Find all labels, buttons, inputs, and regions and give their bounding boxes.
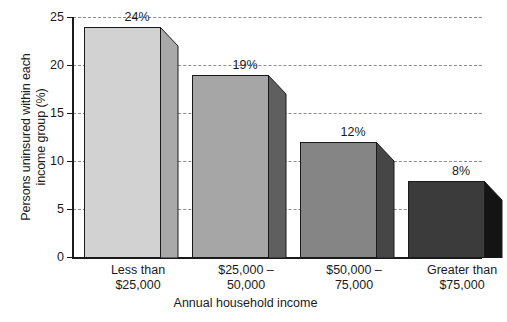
y-tick-label-15: 15	[30, 107, 64, 119]
x-tick-label-4-line-1: Greater than	[398, 263, 507, 278]
y-tick-label-0: 0	[30, 251, 64, 263]
bar-side-4	[484, 181, 507, 258]
bar-value-3: 12%	[300, 126, 406, 139]
x-tick-label-4-line-2: $75,000	[398, 278, 507, 293]
bar-group-2[interactable]: 19%	[192, 75, 298, 258]
y-tick-mark-10	[67, 161, 72, 162]
bar-side-3	[376, 142, 406, 258]
y-tick-mark-15	[67, 113, 72, 114]
bar-side-1	[160, 27, 190, 258]
x-tick-label-4: Greater than $75,000	[398, 263, 507, 292]
x-axis-title: Annual household income	[0, 296, 491, 310]
y-tick-label-20: 20	[30, 59, 64, 71]
bar-value-4: 8%	[408, 165, 507, 178]
bar-side-2	[268, 75, 298, 258]
y-axis-title-line-1: Persons uninsured within each	[19, 53, 34, 220]
bar-value-1: 24%	[84, 11, 190, 24]
bar-front-1	[84, 27, 161, 258]
bar-front-3	[300, 142, 377, 258]
bar-group-1[interactable]: 24%	[84, 27, 190, 258]
y-tick-label-5: 5	[30, 203, 64, 215]
bar-group-3[interactable]: 12%	[300, 142, 406, 258]
y-tick-mark-25	[67, 17, 72, 18]
y-axis-line	[72, 17, 74, 258]
plot-area: 24% 19% 12%	[72, 17, 482, 258]
y-axis-title-line-2: income group (%)	[34, 88, 49, 185]
y-tick-label-10: 10	[30, 155, 64, 167]
y-axis-title: Persons uninsured within each income gro…	[17, 7, 51, 267]
bar-front-2	[192, 75, 269, 258]
y-tick-mark-20	[67, 65, 72, 66]
y-tick-mark-0	[67, 257, 72, 258]
bar-front-4	[408, 181, 485, 258]
bar-value-2: 19%	[192, 59, 298, 72]
y-tick-mark-5	[67, 209, 72, 210]
y-tick-label-25: 25	[30, 11, 64, 23]
bar-group-4[interactable]: 8%	[408, 181, 507, 258]
